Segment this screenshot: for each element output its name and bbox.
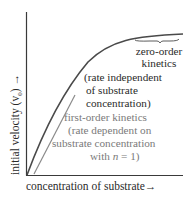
first-order-desc-2: substrate concentration [52, 138, 155, 149]
zero-order-desc-3: concentration) [86, 98, 151, 109]
first-order-desc-3: with n = 1) [90, 151, 140, 162]
y-axis-label: initial velocity (v0) → [9, 74, 24, 175]
x-axis-label: concentration of substrate→ [26, 180, 156, 192]
zero-order-title: zero-order [130, 46, 188, 57]
zero-order-brace [135, 39, 179, 43]
kinetics-diagram: initial velocity (v0) → zero-order kinet… [0, 0, 192, 198]
zero-order-label-line2: kinetics [130, 58, 188, 69]
first-order-with: with [90, 150, 113, 162]
zero-order-desc-2: of substrate [86, 85, 138, 96]
first-order-title: first-order kinetics [64, 112, 147, 123]
first-order-desc-1: (rate dependent on [68, 125, 151, 136]
zero-order-label: zero-order [130, 46, 188, 57]
zero-order-desc-1: (rate independent [84, 72, 162, 83]
first-order-eq: = 1) [118, 150, 139, 162]
